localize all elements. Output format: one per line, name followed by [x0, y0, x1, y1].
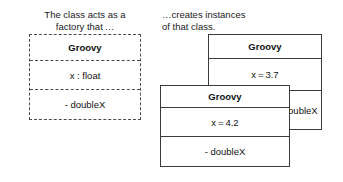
class-box-method: - doubleX [30, 90, 140, 118]
instance-front-attribute: x = 4.2 [161, 108, 289, 137]
class-box-name: Groovy [30, 35, 140, 61]
caption-creates-instances: …creates instances of that class. [162, 9, 312, 33]
class-box-attribute: x : float [30, 61, 140, 90]
instance-front-method: - doubleX [161, 137, 289, 166]
caption-class-factory: The class acts as a factory that … [14, 9, 156, 33]
instance-front-name: Groovy [161, 86, 289, 108]
uml-instance-box-front: Groovy x = 4.2 - doubleX [160, 85, 290, 167]
diagram-canvas: The class acts as a factory that … …crea… [0, 0, 343, 182]
uml-class-box-groovy: Groovy x : float - doubleX [29, 34, 141, 120]
instance-back-name: Groovy [209, 35, 321, 59]
